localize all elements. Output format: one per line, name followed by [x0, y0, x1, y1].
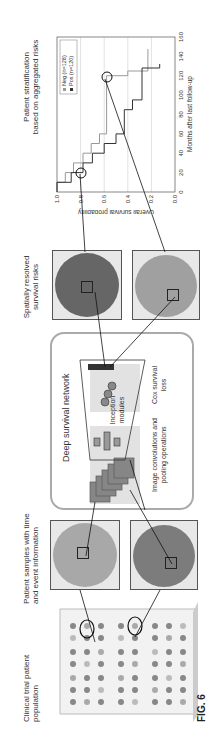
- population-title-line2: population: [31, 632, 40, 722]
- tissue-microarray-slide: [55, 599, 200, 724]
- stratification-title: Patient stratification based on aggregat…: [22, 12, 40, 162]
- svg-text:0: 0: [178, 190, 184, 194]
- svg-text:0.6: 0.6: [101, 194, 107, 203]
- svg-text:120: 120: [178, 70, 184, 81]
- km-plot: 1.00.80.6 0.40.20.0 02040 6080100 120140…: [50, 0, 215, 214]
- svg-text:0.8: 0.8: [78, 194, 84, 203]
- svg-text:20: 20: [178, 169, 184, 176]
- inception-label-line2: modules: [117, 390, 126, 430]
- conv-label-line2: pooling operations: [159, 410, 168, 500]
- risk-map-2: [132, 250, 200, 320]
- svg-text:80: 80: [178, 111, 184, 118]
- svg-text:60: 60: [178, 130, 184, 137]
- inception-label: Inception modules: [108, 390, 126, 430]
- loss-label-line1: Cox survival: [150, 360, 159, 410]
- samples-title-line2: and event information: [31, 494, 40, 604]
- legend-pos: Pos (n=120): [68, 56, 74, 86]
- svg-text:1.0: 1.0: [54, 194, 60, 203]
- svg-text:40: 40: [178, 149, 184, 156]
- svg-text:160: 160: [178, 31, 184, 42]
- x-axis-label: Months after last follow-up: [186, 76, 194, 152]
- risk-map-1: [52, 250, 122, 320]
- population-title: Clinical trial patient population: [22, 632, 40, 722]
- patient-sample-1: [50, 520, 120, 590]
- conv-label: Image convolutions and pooling operation…: [150, 410, 168, 500]
- region-of-interest: [81, 281, 93, 293]
- risks-title: Spatially resolved survival risks: [22, 242, 40, 332]
- svg-text:0.4: 0.4: [125, 194, 131, 203]
- samples-title: Patient samples with time and event info…: [22, 494, 40, 604]
- region-of-interest: [167, 289, 179, 301]
- region-of-interest: [165, 557, 177, 569]
- region-of-interest: [77, 547, 89, 559]
- patient-sample-2: [130, 520, 198, 590]
- loss-label-line2: loss: [159, 360, 168, 410]
- inception-label-line1: Inception: [108, 390, 117, 430]
- samples-title-line1: Patient samples with time: [22, 494, 31, 604]
- risks-title-line2: survival risks: [31, 242, 40, 332]
- svg-text:140: 140: [178, 51, 184, 62]
- svg-text:100: 100: [178, 89, 184, 100]
- loss-label: Cox survival loss: [150, 360, 168, 410]
- conv-label-line1: Image convolutions and: [150, 410, 159, 500]
- y-axis-label: Overall survival probability: [77, 208, 154, 214]
- rotated-figure-canvas: Clinical trial patient population FIG. 6…: [0, 0, 215, 752]
- risks-title-line1: Spatially resolved: [22, 242, 31, 332]
- svg-text:0.0: 0.0: [172, 194, 178, 203]
- figure-label: FIG. 6: [196, 694, 207, 722]
- svg-text:0.2: 0.2: [148, 194, 154, 203]
- population-title-line1: Clinical trial patient: [22, 632, 31, 722]
- stratification-title-line1: Patient stratification: [22, 12, 31, 162]
- stratification-title-line2: based on aggregated risks: [31, 12, 40, 162]
- legend-neg: Neg (n=128): [61, 55, 67, 86]
